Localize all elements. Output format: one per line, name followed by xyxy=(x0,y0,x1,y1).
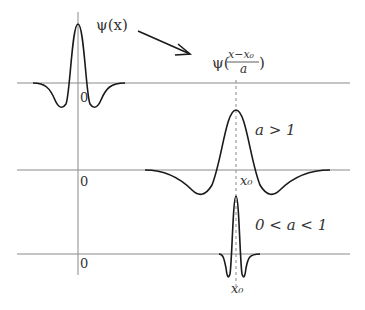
psi-scaled-prefix: ψ( xyxy=(212,54,230,72)
dilated-wavelet-curve xyxy=(145,110,330,194)
mother-wavelet-curve xyxy=(33,24,125,107)
origin-label-middle: 0 xyxy=(80,174,88,189)
origin-label-top: 0 xyxy=(80,90,88,105)
x0-label-bottom: x₀ xyxy=(231,281,244,296)
psi-scaled-numerator: x−x₀ xyxy=(228,48,255,61)
psi-x-label: ψ(x) xyxy=(96,16,128,34)
wavelet-scaling-diagram: ψ(x) ψ( x−x₀ a ) 0 0 0 a > 1 0 < a < 1 x… xyxy=(0,0,365,310)
arrow-head-icon xyxy=(175,44,190,55)
compressed-wavelet-curve xyxy=(219,196,260,277)
x0-label-middle: x₀ xyxy=(240,173,253,188)
psi-scaled-denominator: a xyxy=(240,62,247,76)
psi-scaled-suffix: ) xyxy=(259,54,265,72)
case-a-between-0-1-label: 0 < a < 1 xyxy=(255,216,327,234)
origin-label-bottom: 0 xyxy=(80,256,88,271)
transform-arrow xyxy=(138,31,190,54)
case-a-greater-1-label: a > 1 xyxy=(255,121,296,139)
